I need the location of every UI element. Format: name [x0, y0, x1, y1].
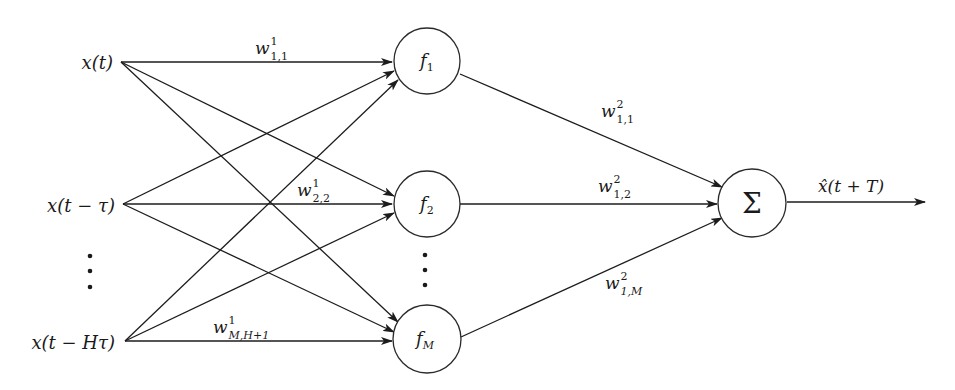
edge-in1-fM: [123, 204, 394, 332]
sigma-symbol: Σ: [742, 187, 762, 220]
weight-label-w2-1-2: w21,2: [598, 173, 631, 201]
edge-in0-fM: [121, 62, 398, 322]
edge-inH-f1: [125, 80, 398, 341]
edge-inH-f2: [125, 213, 394, 341]
input-label-x-t: x(t): [82, 52, 113, 73]
input-ellipsis: [88, 254, 93, 290]
output-label: x̂(t + T): [818, 176, 884, 196]
weight-label-w1-2-2: w12,2: [297, 177, 330, 205]
hidden-node-f2: f2: [394, 171, 460, 237]
hidden-node-fM: fM: [393, 305, 461, 373]
edge-in1-f1: [123, 71, 394, 204]
weight-label-w2-1-M: w21,M: [605, 270, 643, 298]
layer1-edges: [121, 62, 398, 341]
edge-in0-f2: [121, 62, 394, 196]
edge-fM-sum: [461, 218, 722, 337]
weight-label-w1-1-1: w11,1: [255, 35, 288, 63]
sum-node: Σ: [718, 169, 786, 237]
hidden-ellipsis: [423, 253, 428, 288]
neural-network-diagram: f1 f2 fM Σ x(t) x(t − τ) x(t − Hτ) w11,1…: [0, 0, 955, 390]
layer2-edges: [460, 74, 925, 337]
hidden-node-f1: f1: [394, 28, 460, 94]
weight-label-w1-M-H1: w1M,H+1: [213, 314, 269, 342]
edge-f1-sum: [460, 74, 722, 187]
input-label-x-t-minus-H-tau: x(t − Hτ): [31, 332, 115, 353]
input-label-x-t-minus-tau: x(t − τ): [47, 195, 115, 216]
weight-label-w2-1-1: w21,1: [601, 98, 634, 126]
